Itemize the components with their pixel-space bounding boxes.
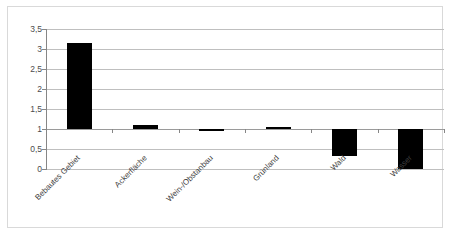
y-axis-tick-label: 0,5: [12, 145, 42, 154]
gridline: [46, 169, 444, 170]
gridline: [46, 69, 444, 70]
gridline: [46, 109, 444, 110]
y-axis-tick-mark: [42, 89, 46, 90]
y-axis-tick-mark: [42, 169, 46, 170]
bar: [332, 129, 357, 156]
y-axis-tick-label: 2: [12, 85, 42, 94]
plot-area: [46, 29, 444, 169]
y-axis-tick-mark: [42, 149, 46, 150]
gridline: [46, 29, 444, 30]
y-axis-tick-labels: 00,511,522,533,5: [8, 29, 42, 169]
gridline: [46, 49, 444, 50]
category-axis-tick-mark: [444, 129, 445, 133]
category-axis-tick-mark: [112, 129, 113, 133]
value-axis-line: [46, 29, 47, 170]
y-axis-tick-mark: [42, 29, 46, 30]
y-axis-tick-label: 3: [12, 45, 42, 54]
category-axis-tick-mark: [179, 129, 180, 133]
bar: [266, 127, 291, 129]
y-axis-tick-mark: [42, 109, 46, 110]
bar: [67, 43, 92, 129]
y-axis-tick-label: 1: [12, 125, 42, 134]
category-axis-tick-mark: [311, 129, 312, 133]
y-axis-tick-label: 0: [12, 165, 42, 174]
y-axis-tick-label: 2,5: [12, 65, 42, 74]
bar: [133, 125, 158, 129]
category-axis-tick-mark: [378, 129, 379, 133]
category-axis-tick-mark: [46, 129, 47, 133]
y-axis-tick-mark: [42, 49, 46, 50]
gridline: [46, 149, 444, 150]
y-axis-tick-label: 3,5: [12, 25, 42, 34]
gridline: [46, 89, 444, 90]
y-axis-tick-label: 1,5: [12, 105, 42, 114]
bar: [199, 129, 224, 131]
category-axis-tick-mark: [245, 129, 246, 133]
y-axis-tick-mark: [42, 69, 46, 70]
chart-frame: 00,511,522,533,5 Bebautes GebietAckerflä…: [7, 6, 443, 228]
